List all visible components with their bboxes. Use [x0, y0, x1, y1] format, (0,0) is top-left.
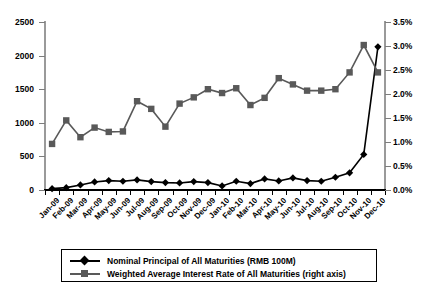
y-axis-right-tick-label: 0.0% [393, 186, 433, 194]
y-axis-left-tick [39, 89, 45, 90]
data-point-diamond [162, 179, 169, 186]
legend-item-weighted-average-rate: Weighted Average Interest Rate of All Ma… [68, 267, 370, 280]
legend-item-nominal-principal: Nominal Principal of All Maturities (RMB… [68, 254, 370, 267]
y-axis-right-tick-label: 0.5% [393, 162, 433, 170]
y-axis-right-tick-label: 2.0% [393, 90, 433, 98]
y-axis-left-tick [39, 123, 45, 124]
data-point-diamond [133, 176, 140, 183]
legend-item-label: Nominal Principal of All Maturities (RMB… [107, 256, 296, 266]
y-axis-left-tick-label: 0 [0, 186, 34, 194]
data-point-diamond [176, 179, 183, 186]
y-axis-left-tick-label: 2500 [0, 18, 34, 26]
data-point-diamond [204, 179, 211, 186]
data-point-square [77, 134, 83, 140]
data-point-square [191, 94, 197, 100]
data-point-square [290, 81, 296, 87]
data-point-square [375, 69, 381, 75]
data-point-diamond [374, 43, 381, 50]
data-point-square [106, 129, 112, 135]
x-axis-tick [45, 191, 46, 195]
y-axis-right-tick-label: 1.0% [393, 138, 433, 146]
y-axis-right-tick [385, 70, 391, 71]
y-axis-right-tick-label: 3.0% [393, 42, 433, 50]
x-axis-tick [229, 191, 230, 195]
data-point-square [91, 124, 97, 130]
x-axis-labels: Jan-09Feb-09Mar-09Apr-09May-09Jun-09Jul-… [0, 196, 438, 242]
y-axis-right-tick [385, 94, 391, 95]
data-point-square [162, 123, 168, 129]
y-axis-right-tick [385, 142, 391, 143]
data-point-diamond [346, 169, 353, 176]
x-axis-tick [144, 191, 145, 195]
diamond-line-marker-icon [68, 255, 102, 266]
x-axis-tick [73, 191, 74, 195]
y-axis-left-tick [39, 156, 45, 157]
x-axis-tick [286, 191, 287, 195]
chart-plot-lines [0, 0, 438, 290]
data-point-diamond [247, 180, 254, 187]
data-point-diamond [360, 151, 367, 158]
y-axis-left-line [44, 21, 46, 191]
data-point-square [63, 117, 69, 123]
data-point-square [148, 106, 154, 112]
legend-item-label: Weighted Average Interest Rate of All Ma… [107, 269, 346, 279]
data-point-diamond [332, 174, 339, 181]
x-axis-tick [243, 191, 244, 195]
data-point-square [261, 95, 267, 101]
x-axis-tick [201, 191, 202, 195]
x-axis-tick [314, 191, 315, 195]
x-axis-tick [116, 191, 117, 195]
data-point-square [361, 42, 367, 48]
x-axis-tick [258, 191, 259, 195]
x-axis-tick [371, 191, 372, 195]
data-point-diamond [119, 178, 126, 185]
series-line [52, 47, 378, 189]
x-axis-tick [300, 191, 301, 195]
data-point-diamond [77, 181, 84, 188]
data-point-square [233, 85, 239, 91]
x-axis-tick [328, 191, 329, 195]
y-axis-right-tick [385, 46, 391, 47]
data-point-diamond [261, 175, 268, 182]
data-point-square [332, 86, 338, 92]
data-point-diamond [275, 177, 282, 184]
square-line-marker-icon [68, 268, 102, 279]
data-point-diamond [91, 178, 98, 185]
data-point-square [219, 90, 225, 96]
series-line [52, 45, 378, 144]
data-point-square [318, 87, 324, 93]
x-axis-tick [343, 191, 344, 195]
data-point-square [134, 98, 140, 104]
y-axis-right-tick [385, 22, 391, 23]
data-point-square [49, 141, 55, 147]
data-point-diamond [303, 177, 310, 184]
x-axis-tick [187, 191, 188, 195]
y-axis-left-tick-label: 2000 [0, 52, 34, 60]
data-point-diamond [289, 174, 296, 181]
y-axis-right-tick-label: 2.5% [393, 66, 433, 74]
chart-legend: Nominal Principal of All Maturities (RMB… [61, 249, 377, 282]
x-axis-tick [385, 191, 386, 195]
data-point-diamond [190, 178, 197, 185]
y-axis-right-tick-label: 3.5% [393, 18, 433, 26]
data-point-square [176, 100, 182, 106]
y-axis-right-tick-label: 1.5% [393, 114, 433, 122]
data-point-square [276, 75, 282, 81]
x-axis-tick [102, 191, 103, 195]
y-axis-right-tick [385, 166, 391, 167]
x-axis-tick [272, 191, 273, 195]
x-axis-tick [173, 191, 174, 195]
y-axis-left-tick-label: 1500 [0, 85, 34, 93]
x-axis-tick [59, 191, 60, 195]
data-point-diamond [148, 178, 155, 185]
x-axis-tick [130, 191, 131, 195]
data-point-square [205, 86, 211, 92]
x-axis-tick [357, 191, 358, 195]
chart-container: Jan-09Feb-09Mar-09Apr-09May-09Jun-09Jul-… [0, 0, 438, 290]
data-point-square [120, 128, 126, 134]
x-axis-tick [215, 191, 216, 195]
data-point-square [247, 102, 253, 108]
y-axis-right-tick [385, 118, 391, 119]
data-point-square [304, 87, 310, 93]
data-point-diamond [233, 178, 240, 185]
